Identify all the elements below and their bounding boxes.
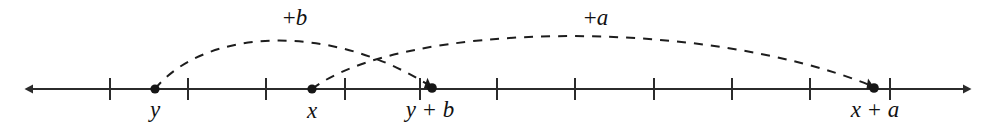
point-label-y: y <box>150 98 160 121</box>
point-label-y-plus-b: y + b <box>406 98 455 121</box>
arc-label-plus-b: +b <box>283 6 307 29</box>
number-line-figure: +b +a y x y + b x + a <box>0 0 996 127</box>
arc-plus-a <box>312 36 872 89</box>
point-dot-x-plus-a <box>869 83 879 93</box>
point-dot-y-plus-b <box>427 83 437 93</box>
point-label-x-plus-a: x + a <box>851 98 900 121</box>
arc-label-plus-a-symbol: a <box>597 5 609 30</box>
arc-label-plus-b-symbol: b <box>296 5 308 30</box>
point-dot-y <box>150 84 159 93</box>
point-dot-x <box>307 84 316 93</box>
point-label-x: x <box>307 99 317 122</box>
arc-plus-b <box>155 41 430 89</box>
arc-label-plus-a: +a <box>584 6 608 29</box>
